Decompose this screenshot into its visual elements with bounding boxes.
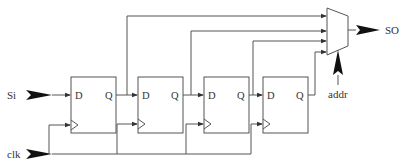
flip-flop-1: D Q bbox=[71, 77, 116, 133]
ff1-q-label: Q bbox=[105, 90, 113, 101]
si-input-arrow-icon bbox=[26, 90, 52, 100]
so-output-arrow-icon bbox=[356, 25, 380, 35]
ff3-d-label: D bbox=[208, 90, 216, 101]
flip-flop-3: D Q bbox=[204, 77, 249, 133]
ff1-d-label: D bbox=[75, 90, 83, 101]
si-label: Si bbox=[7, 89, 16, 101]
ff3-q-label: Q bbox=[237, 90, 245, 101]
ff2-q-label: Q bbox=[171, 90, 179, 101]
ff2-d-label: D bbox=[142, 90, 150, 101]
multiplexer bbox=[327, 8, 348, 55]
addr-label: addr bbox=[328, 88, 348, 100]
clk-label: clk bbox=[7, 148, 21, 160]
ff4-d-label: D bbox=[267, 90, 275, 101]
ff4-q-label: Q bbox=[296, 90, 304, 101]
flip-flop-2: D Q bbox=[138, 77, 183, 133]
so-label: SO bbox=[385, 24, 399, 36]
flip-flop-4: D Q bbox=[263, 77, 308, 133]
shift-register-diagram: D Q D Q D Q D Q SO bbox=[0, 0, 402, 164]
clk-input-arrow-icon bbox=[26, 149, 52, 159]
addr-input-arrow-icon bbox=[333, 50, 343, 75]
